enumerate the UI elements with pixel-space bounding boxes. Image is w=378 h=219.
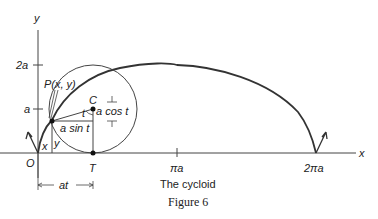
tick-label-pi-a: πa [170,162,184,174]
radius-cp [52,109,93,121]
tick-label-2a: 2a [15,59,28,71]
point-c [91,107,96,112]
label-a-cos-t: a cos t [96,105,129,117]
at-dim-arrow-right [76,183,93,187]
tick-label-2pi-a: 2πa [303,162,324,174]
point-t [91,151,96,156]
tick-label-a: a [24,103,30,115]
label-a-sin-t: a sin t [60,122,90,134]
cycloid-curve [38,63,316,153]
figure-label: Figure 6 [168,195,208,209]
at-dim-arrow-left [38,183,54,187]
cusp-arrow-left [26,132,38,153]
cycloid-diagram: y x O 2a a πa 2πa P(x, y) C T t a sin t … [0,0,378,219]
p-leader [49,90,58,118]
y-axis-label: y [33,12,41,24]
origin-label: O [26,157,35,169]
angle-arc [86,111,93,115]
x-axis-label: x [358,147,365,159]
figure-caption: The cycloid [160,178,216,190]
label-y-seg: y [53,137,61,149]
label-angle-t: t [82,107,86,119]
cusp-arrow-right [316,132,327,153]
label-p: P(x, y) [44,78,76,90]
label-x-seg: x [41,140,48,152]
point-p [50,119,55,124]
label-t-point: T [89,162,97,174]
label-at: at [59,179,69,191]
